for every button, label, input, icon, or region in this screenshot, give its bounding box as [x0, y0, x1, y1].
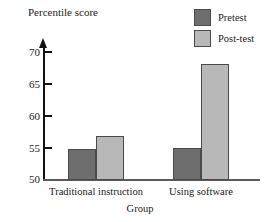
x-category-label-traditional: Traditional instruction [49, 186, 143, 198]
bar-software-posttest [201, 64, 229, 180]
bar-software-pretest [173, 148, 201, 180]
legend-item-pretest: Pretest [194, 8, 254, 27]
bar-chart: Percentile score 70 65 60 55 50 Traditio… [0, 0, 280, 222]
legend-swatch-posttest [194, 30, 211, 47]
legend-label-pretest: Pretest [218, 12, 247, 24]
x-category-label-software: Using software [169, 186, 233, 198]
legend-item-posttest: Post-test [194, 29, 254, 48]
bar-traditional-posttest [96, 136, 124, 180]
legend: Pretest Post-test [194, 8, 254, 50]
legend-swatch-pretest [194, 9, 211, 26]
bar-traditional-pretest [68, 149, 96, 180]
legend-label-posttest: Post-test [218, 33, 254, 45]
x-axis-title: Group [127, 203, 154, 215]
